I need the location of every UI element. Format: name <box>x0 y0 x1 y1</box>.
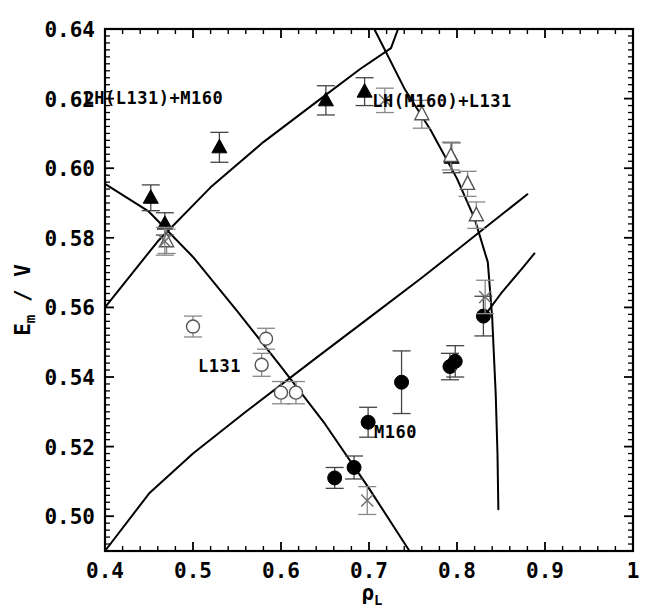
y-tick-label: 0.58 <box>44 227 95 251</box>
y-tick-label: 0.64 <box>44 18 95 42</box>
annotation-m160: M160 <box>374 422 417 442</box>
chart-svg: 0.40.50.60.70.80.910.500.520.540.560.580… <box>0 0 665 613</box>
y-tick-label: 0.50 <box>44 505 95 529</box>
marker-filled-circle <box>476 309 490 323</box>
x-tick-label: 1 <box>627 559 640 583</box>
annotation-l131: L131 <box>198 356 241 376</box>
marker-open-circle <box>255 358 268 371</box>
x-tick-label: 0.6 <box>262 559 300 583</box>
y-tick-label: 0.56 <box>44 296 95 320</box>
marker-filled-circle <box>328 471 342 485</box>
marker-open-circle <box>289 386 302 399</box>
annotation-lh-l131-m160: LH(L131)+M160 <box>84 88 224 108</box>
y-axis-label: Em / V <box>11 264 38 336</box>
x-tick-label: 0.4 <box>86 559 124 583</box>
x-tick-label: 0.9 <box>526 559 564 583</box>
x-tick-label: 0.8 <box>438 559 476 583</box>
marker-open-circle <box>275 386 288 399</box>
figure-canvas: 0.40.50.60.70.80.910.500.520.540.560.580… <box>0 0 665 613</box>
marker-open-circle <box>187 320 200 333</box>
y-tick-label: 0.60 <box>44 157 95 181</box>
marker-filled-circle <box>395 375 409 389</box>
annotation-lh-m160-l131: LH(M160)+L131 <box>372 91 512 111</box>
marker-open-circle <box>260 332 273 345</box>
x-tick-label: 0.5 <box>174 559 212 583</box>
marker-filled-circle <box>347 460 361 474</box>
y-tick-label: 0.52 <box>44 436 95 460</box>
svg-text:Em / V: Em / V <box>11 264 38 336</box>
marker-filled-circle <box>448 354 462 368</box>
y-tick-label: 0.54 <box>44 366 95 390</box>
x-tick-label: 0.7 <box>350 559 388 583</box>
